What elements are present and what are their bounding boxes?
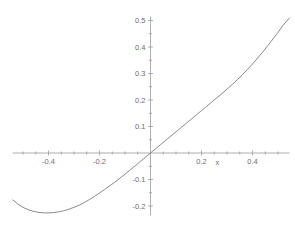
y-tick-label: -0.1 xyxy=(133,175,146,184)
y-axis-tick-labels: 0.50.40.30.20.1-0.1-0.2 xyxy=(133,16,146,211)
y-tick-label: 0.4 xyxy=(135,43,145,52)
y-tick-label: 0.1 xyxy=(135,122,145,131)
x-tick-label: 0.2 xyxy=(196,157,206,166)
chart-canvas: -0.4-0.20.20.4 0.50.40.30.20.1-0.1-0.2 x xyxy=(0,0,295,226)
y-tick-label: 0.5 xyxy=(135,16,145,25)
axis-group xyxy=(13,17,290,216)
plot-container: -0.4-0.20.20.4 0.50.40.30.20.1-0.1-0.2 x xyxy=(0,0,295,226)
x-axis-label: x xyxy=(216,158,220,167)
y-tick-label: 0.3 xyxy=(135,69,145,78)
x-tick-label: 0.4 xyxy=(247,157,257,166)
y-tick-label: 0.2 xyxy=(135,96,145,105)
x-axis-tick-labels: -0.4-0.20.20.4 xyxy=(42,157,258,166)
x-tick-label: -0.2 xyxy=(93,157,106,166)
x-tick-label: -0.4 xyxy=(42,157,55,166)
y-tick-label: -0.2 xyxy=(133,202,146,211)
